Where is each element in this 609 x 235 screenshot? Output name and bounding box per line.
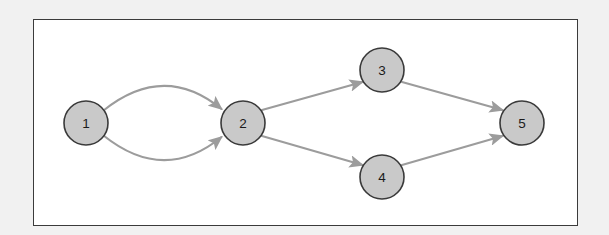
graph-node-5: 5	[500, 101, 544, 145]
nodes-layer: 12345	[64, 48, 544, 199]
node-label-5: 5	[518, 116, 526, 131]
node-label-1: 1	[82, 116, 90, 131]
graph-node-3: 3	[360, 48, 404, 92]
edge-4-to-5	[402, 136, 503, 165]
node-label-4: 4	[378, 170, 386, 185]
node-label-2: 2	[239, 116, 247, 131]
edge-1-to-2	[104, 136, 222, 161]
graph-node-4: 4	[360, 155, 404, 199]
edge-3-to-5	[402, 82, 503, 110]
edge-2-to-4	[262, 136, 363, 165]
graph-node-2: 2	[221, 101, 265, 145]
node-label-3: 3	[378, 63, 386, 78]
edge-2-to-3	[262, 82, 363, 110]
graph-node-1: 1	[64, 101, 108, 145]
graph-canvas: 12345	[0, 0, 609, 235]
edges-layer	[104, 82, 503, 165]
edge-1-to-2	[104, 86, 222, 111]
figure-root: 12345	[0, 0, 609, 235]
